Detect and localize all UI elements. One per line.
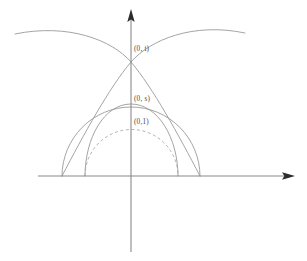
label-point-s: (0, s) (134, 95, 150, 103)
figure-canvas: (0, t) (0, s) (0,1) (0, 0, 307, 261)
label-point-t: (0, t) (134, 45, 150, 53)
left-arc-curve (15, 31, 200, 176)
geometry-diagram: (0, t) (0, s) (0,1) (0, 0, 307, 261)
label-point-one: (0,1) (134, 118, 149, 126)
right-arc-curve (62, 30, 245, 176)
